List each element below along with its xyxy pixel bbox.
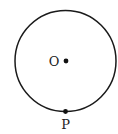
label-p: P <box>61 117 70 132</box>
point-p <box>63 109 68 114</box>
circle-diagram: O P <box>0 0 118 134</box>
center-point-o <box>64 59 69 64</box>
label-o: O <box>49 54 60 69</box>
